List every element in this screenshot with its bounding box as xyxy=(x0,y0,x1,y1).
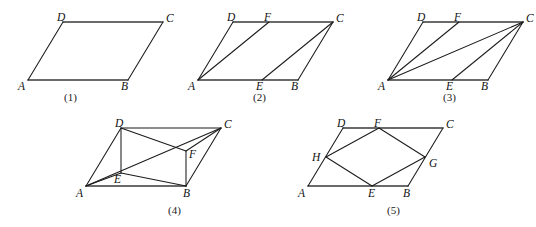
fig3-vertex-label-c: C xyxy=(526,13,534,25)
fig3-segment-ec xyxy=(452,22,523,80)
fig5-vertex-label-e: E xyxy=(368,188,375,200)
fig2-segment-af xyxy=(198,22,269,80)
figure-sheet: ABCD(1)ABCDEF(2)ABCDEF(3)ABCDEF(4)ABCDEF… xyxy=(0,0,536,227)
fig4-segment-eb xyxy=(121,173,186,186)
fig1-vertex-label-c: C xyxy=(166,13,174,25)
fig2-edge-da xyxy=(198,22,233,80)
fig4-vertex-label-b: B xyxy=(183,188,190,200)
fig1-edge-da xyxy=(28,22,63,80)
fig2-vertex-label-b: B xyxy=(291,81,298,93)
fig2-vertex-label-f: F xyxy=(264,12,271,24)
fig1-edge-bc xyxy=(128,22,163,80)
fig1-vertex-label-b: B xyxy=(121,81,128,93)
fig3-edge-bc xyxy=(488,22,523,80)
fig4-segment-df xyxy=(121,128,186,151)
figure-fig5 xyxy=(300,118,470,208)
fig3-caption: (3) xyxy=(443,92,456,103)
fig3-vertex-label-b: B xyxy=(481,81,488,93)
fig5-segment-eh xyxy=(326,157,372,186)
fig2-vertex-label-d: D xyxy=(227,12,235,24)
fig4-vertex-label-a: A xyxy=(76,188,83,200)
fig1-caption: (1) xyxy=(64,92,77,103)
fig5-caption: (5) xyxy=(387,205,400,216)
fig5-vertex-label-c: C xyxy=(446,119,454,131)
fig5-vertex-label-d: D xyxy=(337,118,345,130)
fig3-edge-da xyxy=(388,22,423,80)
fig1-vertex-label-a: A xyxy=(18,81,25,93)
fig5-vertex-label-g: G xyxy=(429,158,437,170)
fig3-vertex-label-d: D xyxy=(417,12,425,24)
fig2-edge-bc xyxy=(298,22,333,80)
fig1-vertex-label-d: D xyxy=(57,12,65,24)
fig3-vertex-label-a: A xyxy=(378,81,385,93)
fig5-vertex-label-h: H xyxy=(312,152,320,164)
figure-fig2 xyxy=(190,8,360,98)
fig4-vertex-label-e: E xyxy=(114,174,121,186)
fig5-segment-fg xyxy=(379,128,425,157)
fig3-vertex-label-f: F xyxy=(454,12,461,24)
fig4-vertex-label-f: F xyxy=(189,149,196,161)
figure-fig1 xyxy=(20,8,190,98)
fig2-vertex-label-c: C xyxy=(336,13,344,25)
fig2-caption: (2) xyxy=(253,92,266,103)
fig5-vertex-label-a: A xyxy=(298,188,305,200)
fig2-vertex-label-a: A xyxy=(188,81,195,93)
fig2-segment-ec xyxy=(262,22,333,80)
figure-fig4 xyxy=(78,118,248,208)
fig3-diagonal-ac xyxy=(388,22,523,80)
fig5-vertex-label-b: B xyxy=(403,188,410,200)
fig4-vertex-label-c: C xyxy=(224,119,232,131)
fig4-diagonal-ac xyxy=(86,128,221,186)
fig4-caption: (4) xyxy=(168,205,181,216)
fig5-vertex-label-f: F xyxy=(374,118,381,130)
fig3-segment-af xyxy=(388,22,459,80)
fig4-vertex-label-d: D xyxy=(115,118,123,130)
